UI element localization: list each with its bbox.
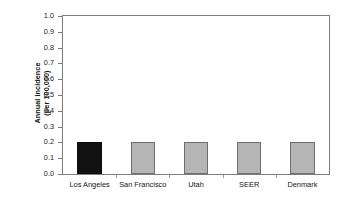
y-tick-label: 0.3 xyxy=(44,122,54,131)
bar-denmark[interactable] xyxy=(290,142,314,174)
y-tick-label: 0.5 xyxy=(44,90,54,99)
bar-slot xyxy=(223,16,276,174)
y-tick-label: 0.4 xyxy=(44,106,54,115)
x-axis-label-denmark: Denmark xyxy=(276,180,329,190)
x-axis-label-utah: Utah xyxy=(169,180,222,190)
x-axis-label-los-angeles: Los Angeles xyxy=(63,180,116,190)
x-tick-mark xyxy=(169,175,170,178)
bar-utah[interactable] xyxy=(184,142,208,174)
y-tick-label: 0.1 xyxy=(44,153,54,162)
y-axis-ticks: 1.00.90.80.70.60.50.40.30.20.10.0 xyxy=(0,15,62,175)
y-tick-label: 0.9 xyxy=(44,27,54,36)
y-tick-label: 0.0 xyxy=(44,169,54,178)
bar-chart-figure: Annual incidence (per 100,000) 1.00.90.8… xyxy=(0,0,343,207)
y-tick-label: 0.6 xyxy=(44,74,54,83)
x-axis-label-san-francisco: San Francisco xyxy=(116,180,169,190)
bar-slot xyxy=(116,16,169,174)
x-axis-ticks xyxy=(63,175,329,179)
bar-slot xyxy=(63,16,116,174)
x-axis-labels: Los AngelesSan FranciscoUtahSEERDenmark xyxy=(63,180,329,196)
bar-seer[interactable] xyxy=(237,142,261,174)
y-tick-label: 0.2 xyxy=(44,137,54,146)
bar-slot xyxy=(276,16,329,174)
x-tick-mark xyxy=(223,175,224,178)
x-tick-mark xyxy=(276,175,277,178)
y-tick-label: 0.7 xyxy=(44,58,54,67)
bars-layer xyxy=(63,16,329,174)
x-axis-label-seer: SEER xyxy=(223,180,276,190)
bar-san-francisco[interactable] xyxy=(131,142,155,174)
y-tick-label: 1.0 xyxy=(44,11,54,20)
bar-slot xyxy=(169,16,222,174)
x-tick-mark xyxy=(116,175,117,178)
bar-los-angeles[interactable] xyxy=(77,142,101,174)
y-tick-label: 0.8 xyxy=(44,43,54,52)
